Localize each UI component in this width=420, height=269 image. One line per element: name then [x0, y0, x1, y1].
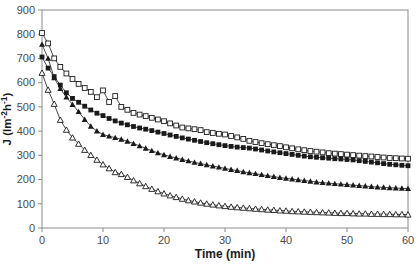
plot-frame	[42, 10, 408, 228]
y-tick-label: 300	[17, 149, 35, 161]
open-triangle-series-marker	[112, 169, 118, 174]
open-triangle-series-marker	[57, 117, 63, 122]
filled-square-series-marker	[88, 108, 93, 113]
open-square-series-marker	[70, 77, 75, 82]
filled-square-series-marker	[290, 152, 295, 157]
open-triangle-series-marker	[137, 180, 143, 185]
open-square-series-marker	[156, 117, 161, 122]
filled-square-series-marker	[131, 124, 136, 129]
filled-triangle-series-marker	[143, 145, 149, 150]
filled-square-series-marker	[308, 154, 313, 159]
open-square-series-marker	[52, 56, 57, 61]
open-square-series-marker	[369, 154, 374, 159]
open-square-series-marker	[406, 156, 411, 161]
filled-square-series-marker	[125, 122, 130, 127]
open-triangle-series-marker	[63, 127, 69, 132]
filled-triangle-series-marker	[131, 141, 137, 146]
open-square-series-marker	[204, 130, 209, 135]
open-square-series-marker	[113, 94, 118, 99]
filled-square-series-marker	[381, 161, 386, 166]
filled-square-series-marker	[320, 155, 325, 160]
open-square-series-marker	[265, 142, 270, 147]
open-square-series-marker	[375, 155, 380, 160]
filled-square-series-marker	[247, 146, 252, 151]
filled-square-series-marker	[174, 134, 179, 139]
filled-square-series-marker	[156, 130, 161, 135]
open-square-series-marker	[198, 128, 203, 133]
open-square-series-marker	[278, 144, 283, 149]
filled-square-series-marker	[314, 155, 319, 160]
filled-square-series-marker	[253, 147, 258, 152]
open-square-series-marker	[235, 135, 240, 140]
filled-triangle-series-marker	[149, 148, 155, 153]
open-square-series-marker	[137, 112, 142, 117]
open-triangle-series-marker	[149, 186, 155, 191]
filled-square-series-marker	[143, 127, 148, 132]
open-square-series-marker	[143, 114, 148, 119]
filled-square-series-marker	[259, 148, 264, 153]
filled-square-series-marker	[241, 145, 246, 150]
filled-square-series-marker	[265, 149, 270, 154]
open-square-series-marker	[259, 141, 264, 146]
filled-square-series-marker	[119, 121, 124, 126]
open-square-series-marker	[76, 82, 81, 87]
filled-square-series-marker	[95, 111, 100, 116]
x-axis-title: Time (min)	[195, 247, 255, 261]
open-square-series-marker	[192, 127, 197, 132]
filled-square-series-marker	[235, 145, 240, 150]
filled-square-series-marker	[229, 144, 234, 149]
filled-square-series-marker	[82, 104, 87, 109]
filled-square-series-marker	[192, 138, 197, 143]
filled-square-series-marker	[113, 119, 118, 124]
open-square-series-marker	[345, 152, 350, 157]
open-square-series-marker	[217, 131, 222, 136]
filled-square-series-marker	[302, 154, 307, 159]
filled-square-series-marker	[284, 151, 289, 156]
filled-square-series-marker	[332, 156, 337, 161]
open-triangle-series-marker	[45, 87, 51, 92]
open-square-series-marker	[174, 123, 179, 128]
open-square-series-marker	[131, 111, 136, 116]
open-triangle-series-marker	[124, 174, 130, 179]
filled-square-series-marker	[46, 66, 51, 71]
open-square-series-marker	[332, 151, 337, 156]
x-tick-label: 50	[341, 234, 353, 246]
open-square-series-marker	[381, 155, 386, 160]
open-square-series-marker	[290, 146, 295, 151]
open-square-series-marker	[296, 147, 301, 152]
open-square-series-marker	[387, 156, 392, 161]
open-triangle-series-marker	[100, 162, 106, 167]
open-square-series-marker	[149, 115, 154, 120]
open-square-series-marker	[302, 148, 307, 153]
open-square-series-markers	[40, 31, 411, 162]
open-square-series-marker	[82, 86, 87, 91]
open-square-series-marker	[168, 121, 173, 126]
filled-square-series-marker	[400, 163, 405, 168]
flux-vs-time-chart: 0100200300400500600700800900010203040506…	[0, 0, 420, 269]
open-square-series-marker	[180, 125, 185, 130]
open-square-series-marker	[253, 140, 258, 145]
filled-square-series-marker	[186, 137, 191, 142]
x-tick-label: 30	[219, 234, 231, 246]
open-square-series-marker	[101, 88, 106, 93]
filled-square-series-marker	[278, 150, 283, 155]
y-tick-label: 800	[17, 28, 35, 40]
x-tick-label: 40	[280, 234, 292, 246]
y-tick-label: 100	[17, 198, 35, 210]
open-triangle-series-marker	[51, 101, 57, 106]
filled-triangle-series-marker	[155, 150, 161, 155]
open-triangle-series-marker	[106, 165, 112, 170]
open-square-series-marker	[357, 153, 362, 158]
x-tick-label: 20	[158, 234, 170, 246]
filled-square-series-marker	[345, 157, 350, 162]
open-square-series-marker	[58, 65, 63, 70]
y-tick-label: 700	[17, 52, 35, 64]
y-tick-label: 500	[17, 101, 35, 113]
x-tick-label: 10	[97, 234, 109, 246]
open-square-series-marker	[95, 95, 100, 100]
open-triangle-series-marker	[94, 157, 100, 162]
filled-square-series-marker	[375, 160, 380, 165]
filled-square-series-marker	[180, 136, 185, 141]
open-square-series-marker	[88, 90, 93, 95]
filled-square-series-marker	[271, 150, 276, 155]
